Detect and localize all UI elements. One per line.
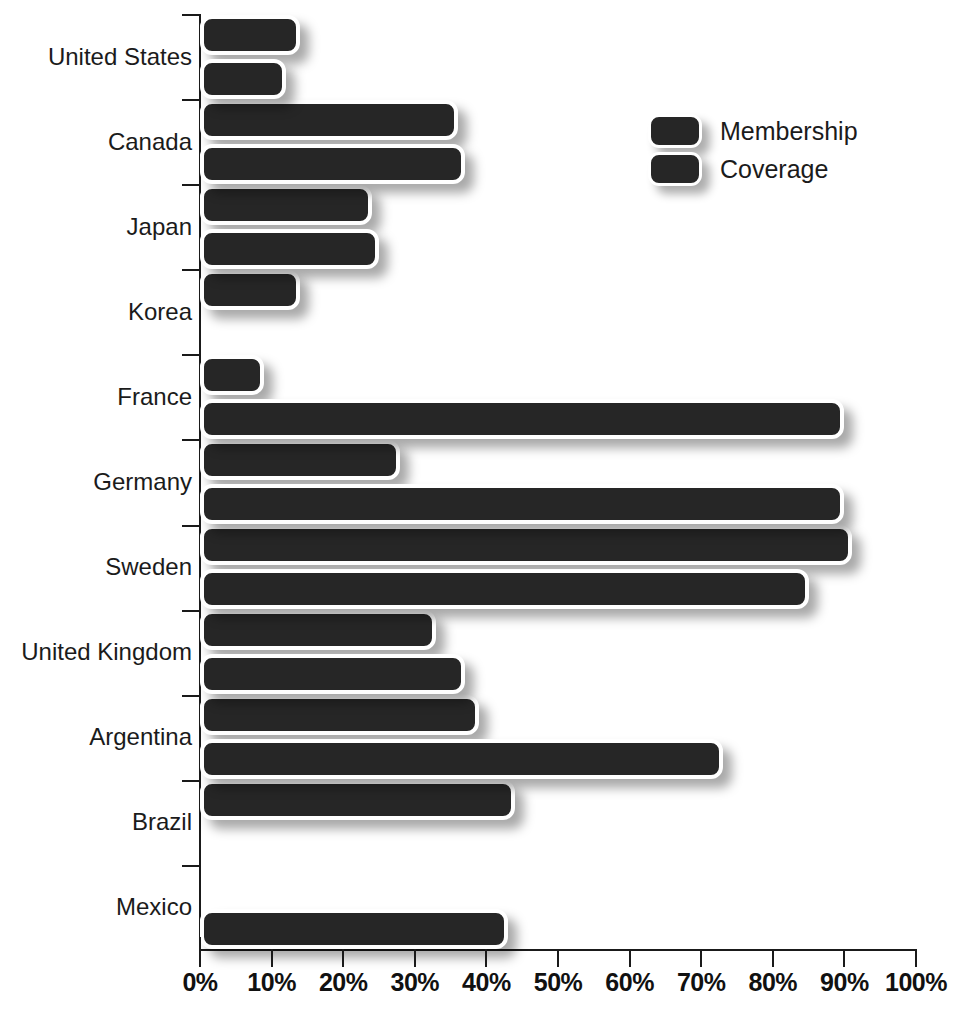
bar-membership-argentina[interactable] [200, 695, 479, 735]
x-axis-tick [557, 949, 559, 967]
y-axis-category-label: Argentina [8, 723, 200, 751]
bar-coverage-canada[interactable] [200, 144, 465, 184]
bar-membership-japan[interactable] [200, 185, 372, 225]
y-axis-category-labels: United StatesCanadaJapanKoreaFranceGerma… [0, 0, 200, 1014]
bar-coverage-france[interactable] [200, 399, 844, 439]
y-axis-category-label: Canada [8, 128, 200, 156]
x-axis-tick [199, 937, 201, 967]
y-axis-category-label: Japan [8, 213, 200, 241]
x-axis-tick-label: 40% [462, 968, 511, 997]
legend-swatch-membership-icon [648, 114, 702, 148]
x-axis-tick [700, 949, 702, 967]
bar-coverage-argentina[interactable] [200, 739, 723, 779]
y-axis-category-label: Sweden [8, 553, 200, 581]
y-axis-tick [182, 439, 199, 441]
bar-membership-sweden[interactable] [200, 525, 852, 565]
x-axis-tick [414, 949, 416, 967]
y-axis-category-label: United States [8, 43, 200, 71]
bar-membership-united-states[interactable] [200, 15, 300, 55]
y-axis-tick [182, 184, 199, 186]
y-axis-category-label: Brazil [8, 808, 200, 836]
y-axis-tick [182, 269, 199, 271]
y-axis-tick [182, 695, 199, 697]
x-axis-tick [485, 949, 487, 967]
legend-swatch-coverage-icon [648, 152, 702, 186]
legend-item-coverage[interactable]: Coverage [648, 150, 908, 188]
y-axis-tick [182, 525, 199, 527]
x-axis-tick [629, 949, 631, 967]
y-axis-tick [182, 99, 199, 101]
y-axis-category-label: France [8, 383, 200, 411]
legend-label-coverage: Coverage [720, 155, 828, 184]
bar-membership-germany[interactable] [200, 440, 400, 480]
y-axis-tick [182, 14, 199, 16]
x-axis-tick [915, 949, 917, 967]
bar-coverage-japan[interactable] [200, 229, 379, 269]
y-axis-tick [182, 865, 199, 867]
x-axis-tick [772, 949, 774, 967]
bar-coverage-united-kingdom[interactable] [200, 654, 465, 694]
x-axis-tick-label: 70% [677, 968, 726, 997]
x-axis-tick-label: 60% [605, 968, 654, 997]
bar-membership-korea[interactable] [200, 270, 300, 310]
x-axis-tick [271, 949, 273, 967]
x-axis-tick-label: 0% [182, 968, 217, 997]
x-axis-tick-label: 80% [749, 968, 798, 997]
x-axis-tick-label: 30% [391, 968, 440, 997]
x-axis-tick-label: 10% [247, 968, 296, 997]
y-axis-tick [182, 780, 199, 782]
x-axis-tick-label: 90% [820, 968, 869, 997]
bar-chart: United StatesCanadaJapanKoreaFranceGerma… [0, 0, 962, 1014]
y-axis-category-label: Korea [8, 298, 200, 326]
bar-coverage-mexico[interactable] [200, 909, 508, 949]
x-axis-tick [843, 949, 845, 967]
chart-legend: Membership Coverage [648, 112, 908, 188]
y-axis-category-label: Mexico [8, 893, 200, 921]
bar-membership-canada[interactable] [200, 100, 458, 140]
bar-membership-france[interactable] [200, 355, 264, 395]
legend-label-membership: Membership [720, 117, 858, 146]
bar-coverage-germany[interactable] [200, 484, 844, 524]
legend-item-membership[interactable]: Membership [648, 112, 908, 150]
y-axis-tick [182, 610, 199, 612]
bar-coverage-sweden[interactable] [200, 569, 809, 609]
x-axis-tick-label: 50% [534, 968, 583, 997]
bar-coverage-united-states[interactable] [200, 59, 286, 99]
bar-membership-united-kingdom[interactable] [200, 610, 436, 650]
y-axis-tick [182, 354, 199, 356]
x-axis-tick [342, 949, 344, 967]
y-axis-category-label: Germany [8, 468, 200, 496]
y-axis-category-label: United Kingdom [8, 638, 200, 666]
x-axis-tick-label: 100% [885, 968, 947, 997]
x-axis-tick-label: 20% [319, 968, 368, 997]
bar-membership-brazil[interactable] [200, 780, 515, 820]
